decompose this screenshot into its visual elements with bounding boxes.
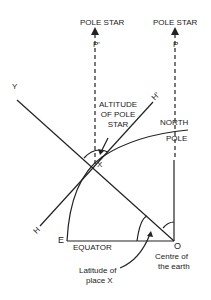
- arrow-up-left: [91, 27, 99, 35]
- latitude-label-1: Latitude of: [79, 266, 116, 275]
- o-label: O: [174, 242, 181, 251]
- pole-label: POLE: [166, 134, 187, 143]
- p-label: P: [173, 40, 178, 49]
- altitude-angle-arc: [84, 150, 108, 158]
- latitude-angle-arc: [137, 216, 147, 241]
- altitude-arrow: [101, 138, 108, 152]
- altitude-label-3: STAR: [98, 120, 138, 129]
- y-label: Y: [12, 82, 17, 91]
- centre-label-1: Centre of: [155, 252, 188, 261]
- pole-star-latitude-diagram: POLE STAR POLE STAR P' P Y H' H X ALTITU…: [0, 0, 211, 300]
- latitude-arrowhead: [147, 231, 153, 237]
- arrow-up-right: [171, 27, 179, 35]
- pole-star-label-right: POLE STAR: [153, 18, 197, 27]
- e-label: E: [58, 236, 64, 245]
- latitude-label-2: place X: [86, 276, 113, 285]
- pole-star-label-left: POLE STAR: [80, 18, 124, 27]
- north-label: NORTH: [160, 118, 188, 127]
- altitude-label-2: OF POLE: [98, 110, 138, 119]
- earth-surface-arc: [67, 130, 188, 241]
- latitude-arrow: [120, 234, 150, 268]
- colatitude-arc: [163, 222, 174, 228]
- x-label: X: [97, 160, 102, 169]
- centre-label-2: the earth: [158, 262, 190, 271]
- altitude-label-1: ALTITUDE: [98, 100, 138, 109]
- equator-label: EQUATOR: [73, 243, 112, 252]
- p-prime-label: P': [93, 40, 100, 49]
